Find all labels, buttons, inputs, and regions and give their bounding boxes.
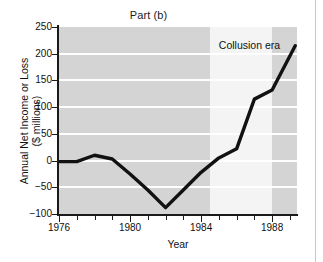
x-tick-mark-1987	[254, 216, 255, 220]
collusion-era-label: Collusion era	[219, 39, 280, 51]
x-tick-mark-1986	[237, 216, 238, 220]
series-line	[59, 27, 297, 214]
y-tick-mark-100	[52, 107, 57, 108]
y-axis-title-wrap: Annual Net Income or Loss ($ millions)	[0, 27, 26, 214]
x-tick-mark-1981	[148, 216, 149, 220]
series-polyline	[59, 46, 295, 208]
x-tick-label-1988: 1988	[261, 222, 283, 233]
x-axis-line	[57, 214, 298, 216]
x-tick-mark-1985	[219, 216, 220, 220]
chart-figure: Part (b) −100−50050100150200250 19761980…	[0, 0, 323, 262]
y-tick-mark-150	[52, 80, 57, 81]
y-tick-mark--100	[52, 214, 57, 215]
x-tick-label-1980: 1980	[119, 222, 141, 233]
x-tick-mark-1979	[112, 216, 113, 220]
x-tick-mark-1977	[77, 216, 78, 220]
x-tick-mark-1983	[183, 216, 184, 220]
y-axis-title-line2: ($ millions)	[30, 95, 42, 146]
y-tick-mark-250	[52, 27, 57, 28]
y-axis-title: Annual Net Income or Loss ($ millions)	[18, 31, 42, 211]
y-tick-mark-0	[52, 161, 57, 162]
y-tick-mark--50	[52, 187, 57, 188]
page-right-border	[315, 0, 316, 262]
chart-title: Part (b)	[0, 9, 323, 21]
x-tick-mark-1989	[290, 216, 291, 220]
x-tick-label-1984: 1984	[190, 222, 212, 233]
y-tick-mark-200	[52, 54, 57, 55]
x-tick-mark-1978	[95, 216, 96, 220]
plot-area	[59, 27, 297, 214]
x-axis-title: Year	[59, 238, 297, 250]
x-tick-label-1976: 1976	[48, 222, 70, 233]
y-axis-line	[57, 25, 59, 216]
page-right-margin	[316, 0, 323, 262]
y-axis-title-line1: Annual Net Income or Loss	[18, 57, 30, 184]
y-tick-mark-50	[52, 134, 57, 135]
x-tick-mark-1982	[166, 216, 167, 220]
